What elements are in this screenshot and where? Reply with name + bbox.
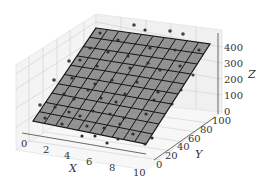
- z-axis-ticks: 400 300 200 100 0: [224, 42, 243, 117]
- 3d-regression-plot: 400 300 200 100 0 Z 0 2 4 6 8 10 X 0 20 …: [0, 0, 267, 188]
- svg-text:0: 0: [156, 159, 162, 170]
- svg-text:400: 400: [224, 42, 243, 53]
- svg-text:4: 4: [64, 150, 70, 161]
- y-axis-label: Y: [195, 148, 204, 161]
- x-axis-label: X: [68, 162, 78, 175]
- svg-text:60: 60: [188, 133, 201, 144]
- svg-text:100: 100: [224, 90, 243, 101]
- svg-text:20: 20: [165, 150, 178, 161]
- svg-text:2: 2: [43, 144, 49, 155]
- svg-text:10: 10: [133, 167, 146, 178]
- svg-text:80: 80: [200, 124, 213, 135]
- svg-text:6: 6: [86, 156, 92, 167]
- svg-text:0: 0: [21, 138, 27, 149]
- svg-text:300: 300: [224, 58, 243, 69]
- svg-text:200: 200: [224, 74, 243, 85]
- svg-text:100: 100: [212, 115, 231, 126]
- svg-text:8: 8: [109, 162, 115, 173]
- z-axis-label: Z: [247, 68, 256, 81]
